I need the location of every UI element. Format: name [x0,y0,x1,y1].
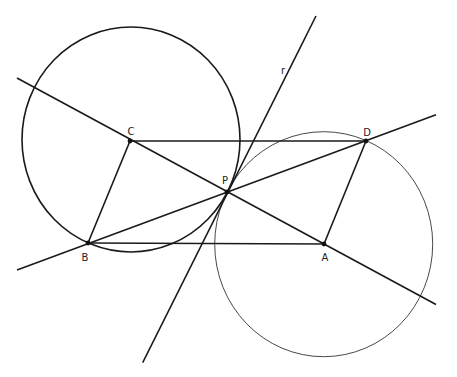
label-r: r [281,65,286,76]
segment-cb [88,141,130,243]
line-r [143,16,316,363]
label-a: A [322,252,329,263]
label-p: P [222,175,228,186]
point-b [86,241,91,246]
point-d [364,139,369,144]
point-a [322,242,327,247]
point-c [128,139,133,144]
point-p [225,190,230,195]
label-d: D [363,127,371,138]
label-b: B [82,252,89,263]
geometry-diagram: C D P B A r [0,0,457,377]
label-c: C [128,126,135,137]
segment-ba [88,243,324,244]
segment-da [324,141,366,244]
